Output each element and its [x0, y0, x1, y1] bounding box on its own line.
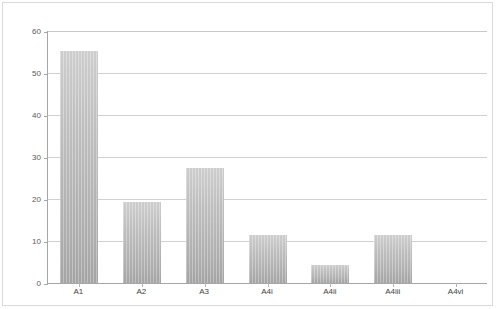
chart-frame: 60 50 40 30 20 [2, 2, 493, 306]
xlabel-a4iii: A4iii [361, 288, 424, 296]
xlabel-a1: A1 [47, 288, 110, 296]
plot-area: 60 50 40 30 20 [47, 31, 487, 284]
ytick-label-60: 60 [32, 28, 41, 36]
xlabel-a3: A3 [173, 288, 236, 296]
bar-a2[interactable] [123, 202, 161, 283]
bar-slot-a1 [48, 31, 111, 283]
bar-a4i[interactable] [249, 235, 287, 283]
bar-slot-a4ii [299, 31, 362, 283]
chart-screenshot: 60 50 40 30 20 [0, 0, 496, 309]
xlabel-a4vi: A4vi [424, 288, 487, 296]
ytick-label-30: 30 [32, 154, 41, 162]
ytick-label-0: 0 [37, 280, 41, 288]
xlabel-a2: A2 [110, 288, 173, 296]
ytick-mark-0 [44, 284, 48, 285]
bar-slot-a4i [236, 31, 299, 283]
bars-layer [48, 31, 487, 283]
ytick-label-40: 40 [32, 112, 41, 120]
bar-slot-a2 [111, 31, 174, 283]
ytick-label-20: 20 [32, 196, 41, 204]
bar-a4ii[interactable] [311, 265, 349, 283]
ytick-label-50: 50 [32, 70, 41, 78]
x-axis-labels: A1 A2 A3 A4i A4ii A4iii A4vi [47, 288, 487, 296]
ytick-label-10: 10 [32, 238, 41, 246]
xlabel-a4i: A4i [236, 288, 299, 296]
plot-wrapper: 60 50 40 30 20 [47, 31, 487, 284]
bar-a1[interactable] [60, 51, 98, 283]
bar-slot-a4vi [424, 31, 487, 283]
bar-slot-a4iii [362, 31, 425, 283]
bar-a4iii[interactable] [374, 235, 412, 283]
bar-a3[interactable] [186, 168, 224, 283]
xlabel-a4ii: A4ii [298, 288, 361, 296]
bar-slot-a3 [173, 31, 236, 283]
